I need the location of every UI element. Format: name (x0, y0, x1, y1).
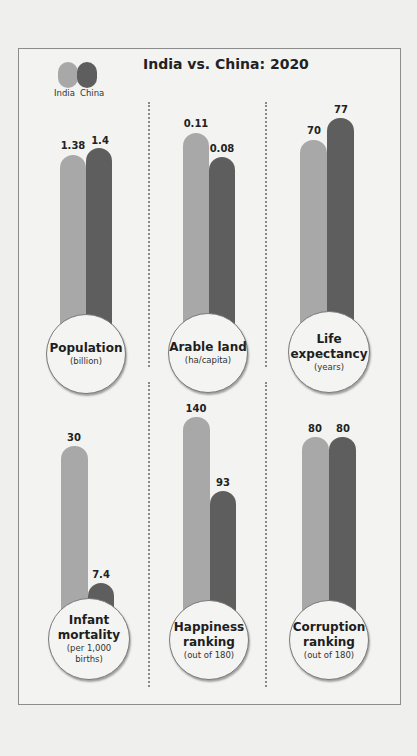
bar-india-corruption-ranking (302, 437, 329, 626)
unit-label: (out of 180) (184, 650, 234, 661)
column-divider (265, 102, 267, 367)
label-badge-happiness-ranking: Happiness ranking (out of 180) (169, 600, 249, 680)
label-badge-arable-land: Arable land (ha/capita) (168, 313, 248, 393)
bar-india-happiness-ranking (183, 417, 210, 626)
value-china-life-expectancy: 77 (321, 104, 361, 115)
label-badge-infant-mortality: Infant mortality (per 1,000 births) (48, 598, 130, 680)
label-badge-corruption-ranking: Corruption ranking (out of 180) (289, 600, 369, 680)
category-label: mortality (58, 628, 120, 643)
legend-swatch-china (77, 62, 97, 88)
category-label: ranking (183, 635, 235, 650)
unit-label: (billion) (70, 356, 102, 367)
unit-label: (out of 180) (304, 650, 354, 661)
unit-label: (years) (314, 362, 344, 373)
unit-label: (ha/capita) (185, 355, 231, 366)
value-india-arable-land: 0.11 (176, 118, 216, 129)
value-china-corruption-ranking: 80 (323, 423, 363, 434)
legend-swatch-india (58, 62, 78, 88)
value-india-happiness-ranking: 140 (176, 403, 216, 414)
category-label: Life (316, 332, 341, 347)
category-label: Arable land (169, 340, 247, 355)
category-label: Happiness (174, 620, 244, 635)
label-badge-life-expectancy: Life expectancy (years) (288, 311, 370, 393)
value-india-infant-mortality: 30 (54, 432, 94, 443)
category-label: Corruption (293, 620, 366, 635)
category-label: expectancy (290, 347, 367, 362)
category-label: Population (49, 341, 122, 356)
bar-china-corruption-ranking (329, 437, 356, 626)
column-divider (148, 102, 150, 367)
column-divider (148, 382, 150, 687)
category-label: ranking (303, 635, 355, 650)
value-china-population: 1.4 (80, 135, 120, 146)
legend-label-china: China (80, 88, 104, 98)
column-divider (265, 382, 267, 687)
category-label: Infant (69, 613, 110, 628)
chart-title: India vs. China: 2020 (143, 56, 309, 72)
label-badge-population: Population (billion) (46, 314, 126, 394)
unit-label: (per 1,000 (67, 643, 111, 654)
legend-label-india: India (54, 88, 75, 98)
unit-label: births) (75, 654, 103, 665)
